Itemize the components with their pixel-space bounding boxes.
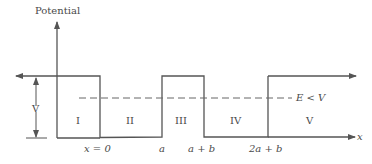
tick-label-x0: x = 0 xyxy=(84,143,111,154)
tick-label-a: a xyxy=(159,143,165,154)
potential-barrier-diagram: Potential x V E < V I II III IV V x = 0 … xyxy=(0,0,372,164)
tick-label-2a-plus-b: 2a + b xyxy=(248,143,282,154)
region-label-iv: IV xyxy=(230,115,242,126)
v-height-label: V xyxy=(31,103,40,114)
x-axis-label: x xyxy=(357,131,363,142)
region-label-iii: III xyxy=(175,115,187,126)
region-label-i: I xyxy=(76,115,80,126)
region-label-ii: II xyxy=(126,115,134,126)
region-label-v: V xyxy=(305,115,314,126)
energy-label: E < V xyxy=(295,92,327,103)
potential-profile xyxy=(57,76,268,138)
tick-label-a-plus-b: a + b xyxy=(188,143,215,154)
y-axis-label: Potential xyxy=(35,5,80,16)
